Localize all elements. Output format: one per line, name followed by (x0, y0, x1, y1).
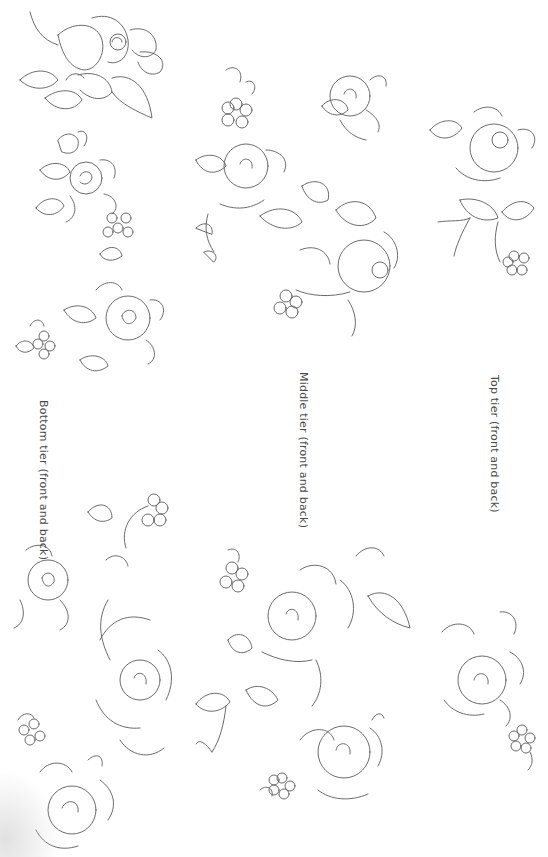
rose-motif-middle-bottom (260, 714, 384, 799)
rose-motif-middle-left (16, 283, 164, 371)
large-rose-spray-motif-middle (260, 182, 398, 336)
rose-motif-small-left (36, 131, 116, 222)
middle-tier-label: Middle tier (front and back) (297, 372, 310, 528)
scan-smudge (0, 770, 60, 857)
flower-motifs-artwork (0, 0, 548, 857)
rose-motif-top-upper (430, 107, 535, 275)
rose-motif-middle-top (322, 76, 386, 140)
large-rose-spray-motif-middle-lower (196, 548, 410, 752)
blossom-motif-left (100, 213, 133, 260)
pattern-sheet: Top tier (front and back) Middle tier (f… (0, 0, 548, 857)
top-tier-label: Top tier (front and back) (488, 375, 501, 513)
rose-motif-top-lower (442, 612, 535, 770)
bottom-tier-label: Bottom tier (front and back) (37, 400, 50, 560)
rose-motif-top-left (20, 12, 163, 118)
rose-spray-motif-middle-upper (196, 68, 286, 262)
